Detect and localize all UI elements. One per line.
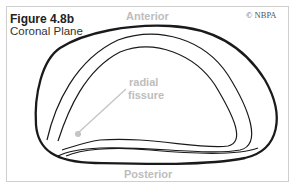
fissure-pointer-line: [78, 89, 126, 133]
copyright-notice: © NBPA: [246, 10, 276, 20]
radial-fissure-label-line2: fissure: [128, 89, 164, 101]
anterior-label: Anterior: [126, 10, 169, 22]
radial-fissure-label-line1: radial: [129, 76, 158, 88]
fissure-pointer-dot: [75, 131, 81, 137]
posterior-label: Posterior: [124, 168, 172, 180]
figure-subtitle: Coronal Plane: [10, 25, 83, 38]
